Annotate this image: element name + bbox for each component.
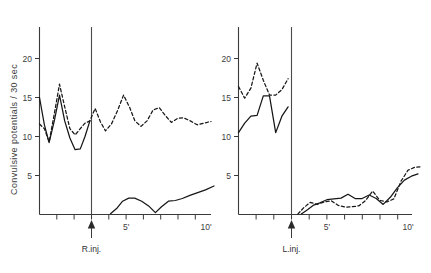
left-x-tick-label-5: 5' [123,222,130,232]
figure-container: 5 10 15 20 5' 10' [0,0,431,273]
convulsive-potentials-chart: 5 10 15 20 5' 10' [0,0,431,273]
left-y-tick-label-10: 10 [23,132,33,142]
right-injection-label: L.inj. [283,244,301,254]
left-y-tick-label-5: 5 [27,171,32,181]
y-axis-title-group: Convulsive potentials / 30 sec [9,64,19,195]
right-y-tick-label-20: 20 [222,54,232,64]
left-y-tick-label-20: 20 [23,54,33,64]
left-panel: 5 10 15 20 5' 10' [23,27,214,254]
right-injection-marker [288,220,295,238]
right-y-tick-label-10: 10 [222,132,232,142]
left-solid-lower-series [111,186,215,214]
left-x-tick-label-10: 10' [200,222,211,232]
right-dashed-upper-series [239,63,289,98]
left-solid-upper-series [40,95,90,150]
right-x-tick-label-10: 10' [402,222,413,232]
left-y-tick-label-15: 15 [23,93,33,103]
left-dashed-upper-series [40,84,212,142]
left-y-ticks [35,59,40,176]
left-x-ticks [57,215,196,220]
right-y-tick-label-15: 15 [222,93,232,103]
right-solid-lower-series [301,174,418,214]
right-panel: 5 10 15 20 5' 10' [222,27,422,254]
right-x-tick-label-5: 5' [324,222,331,232]
left-injection-label: R.inj. [82,244,101,254]
right-y-tick-label-5: 5 [226,171,231,181]
right-solid-upper-series [239,96,289,133]
right-dashed-lower-series [298,167,421,214]
left-injection-marker [88,220,95,238]
right-x-ticks [256,215,398,220]
y-axis-title: Convulsive potentials / 30 sec [9,64,19,195]
right-y-ticks [234,59,239,176]
